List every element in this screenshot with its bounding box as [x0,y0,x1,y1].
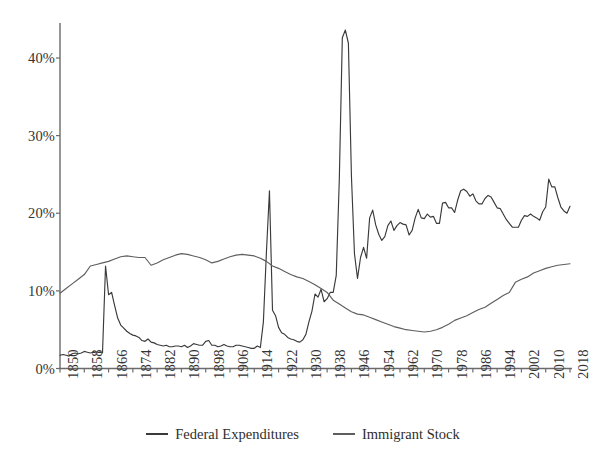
legend-entry-immigrant-stock[interactable]: Immigrant Stock [333,427,460,442]
x-tick-label: 1866 [115,349,130,379]
x-tick-label: 1874 [139,349,154,379]
series-line-immigrant-stock [60,254,570,332]
x-tick-label: 1978 [455,349,470,379]
x-tick-label: 1970 [430,349,445,379]
x-tick-label: 1898 [212,349,227,379]
x-tick-label: 2010 [552,349,567,379]
x-tick-label: 1922 [285,349,300,379]
x-tick-label: 1882 [163,349,178,379]
legend-label-federal-expenditures: Federal Expenditures [175,427,299,442]
x-tick-label: 1986 [479,349,494,379]
legend-entry-federal-expenditures[interactable]: Federal Expenditures [146,427,299,442]
x-tick-label: 2002 [527,349,542,379]
chart-legend: Federal Expenditures Immigrant Stock [0,427,606,442]
chart-series-group [60,30,570,356]
legend-swatch-federal-expenditures [146,433,168,435]
x-tick-label: 1930 [309,349,324,379]
x-tick-label: 1946 [357,349,372,379]
legend-label-immigrant-stock: Immigrant Stock [362,427,460,442]
x-tick-label: 1954 [382,349,397,379]
legend-swatch-immigrant-stock [333,433,355,435]
x-tick-label: 1858 [90,349,105,379]
x-tick-label: 1994 [503,349,518,379]
chart-plot-area [0,0,606,463]
x-tick-label: 1914 [260,349,275,379]
chart-container: 0%10%20%30%40% 1850185818661874188218901… [0,0,606,463]
x-tick-label: 1962 [406,349,421,379]
x-tick-label: 1938 [333,349,348,379]
x-tick-label: 2018 [576,349,591,379]
x-tick-label: 1906 [236,349,251,379]
series-line-federal-expenditures [60,30,570,356]
x-tick-label: 1850 [66,349,81,379]
x-tick-label: 1890 [187,349,202,379]
